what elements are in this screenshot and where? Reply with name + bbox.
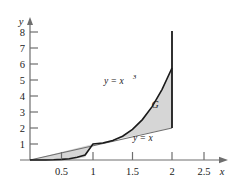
y-axis-ticks [30,32,38,144]
y-tick-label-1: 1 [20,139,25,150]
cubic-curve-exponent: 3 [132,73,137,80]
region-label-g: G [151,99,158,110]
y-tick-label-5: 5 [20,75,25,86]
x-tick-label-2-5: 2.5 [197,166,210,177]
x-tick-label-1-5: 1.5 [126,166,139,177]
y-tick-label-3: 3 [20,107,25,118]
x-axis-label: x [219,166,225,177]
cubic-curve-label: y = x [103,76,124,86]
y-axis-arrow-icon [27,17,33,25]
linear-line-label: y = x [132,133,153,143]
y-tick-label-6: 6 [20,59,25,70]
x-tick-label-0-5: 0.5 [55,166,68,177]
y-tick-label-7: 7 [20,43,25,54]
x-tick-label-2: 2 [169,166,174,177]
y-axis-label: y [18,16,24,27]
cubic-curve-label-group: y = x 3 [103,73,137,86]
x-tick-label-1: 1 [90,166,95,177]
y-tick-label-4: 4 [20,91,26,102]
function-plot-figure: 1 2 3 4 5 6 7 8 0.5 1 1.5 2 2.5 y x y = … [0,0,243,185]
x-axis-arrow-icon [219,157,228,163]
y-tick-label-8: 8 [20,27,25,38]
y-tick-label-2: 2 [20,123,25,134]
